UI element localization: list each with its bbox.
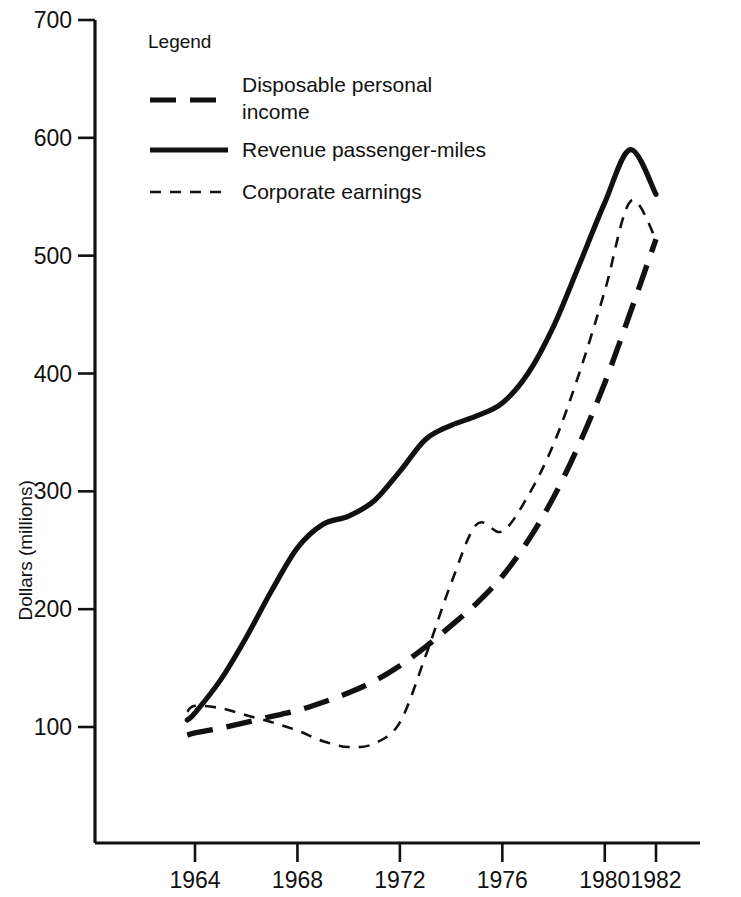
x-tick-label: 1972 — [374, 867, 425, 893]
x-tick-label: 1980 — [579, 867, 630, 893]
series-line — [187, 200, 656, 747]
y-tick-label: 400 — [34, 361, 72, 387]
legend-label-3: Corporate earnings — [242, 180, 422, 203]
x-tick-label: 1982 — [630, 867, 681, 893]
series-line — [187, 239, 656, 735]
legend-label-1: Disposable personalincome — [242, 73, 432, 123]
legend-label-2: Revenue passenger-miles — [242, 138, 486, 161]
y-tick-label: 100 — [34, 714, 72, 740]
x-tick-label: 1964 — [169, 867, 220, 893]
y-tick-label: 700 — [34, 7, 72, 33]
y-tick-label: 500 — [34, 243, 72, 269]
x-tick-label: 1968 — [272, 867, 323, 893]
y-tick-label: 600 — [34, 125, 72, 151]
line-chart: 1002003004005006007001964196819721976198… — [0, 0, 741, 897]
x-tick-label: 1976 — [477, 867, 528, 893]
y-axis-title: Dollars (millions) — [15, 480, 36, 620]
y-tick-label: 300 — [34, 478, 72, 504]
chart-container: 1002003004005006007001964196819721976198… — [0, 0, 741, 897]
legend-title: Legend — [148, 31, 211, 52]
y-tick-label: 200 — [34, 596, 72, 622]
